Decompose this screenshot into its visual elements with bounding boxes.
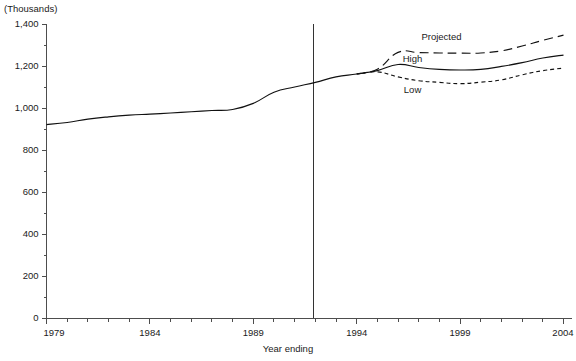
x-axis-title: Year ending [263, 343, 313, 354]
x-tick-label: 1999 [450, 327, 471, 338]
annotation-projected: Projected [421, 31, 461, 42]
y-tick-label: 800 [23, 144, 39, 155]
chart-container: (Thousands) 02004006008001,0001,2001,400… [0, 0, 576, 361]
y-tick-label: 1,000 [15, 102, 39, 113]
x-tick-label: 1979 [44, 327, 65, 338]
y-tick-label: 400 [23, 228, 39, 239]
x-tick-label: 1984 [139, 327, 160, 338]
x-tick-label: 1989 [243, 327, 264, 338]
y-tick-label: 1,200 [15, 60, 39, 71]
annotation-high: High [403, 53, 423, 64]
y-tick-label: 0 [33, 312, 38, 323]
y-tick-label: 200 [23, 270, 39, 281]
x-tick-label: 1994 [346, 327, 367, 338]
y-tick-label: 1,400 [15, 18, 39, 29]
y-tick-label: 600 [23, 186, 39, 197]
chart-background [0, 0, 576, 361]
x-tick-label: 2004 [552, 327, 573, 338]
y-axis-unit-label: (Thousands) [4, 3, 57, 14]
line-chart: (Thousands) 02004006008001,0001,2001,400… [0, 0, 576, 361]
annotation-low: Low [404, 84, 422, 95]
